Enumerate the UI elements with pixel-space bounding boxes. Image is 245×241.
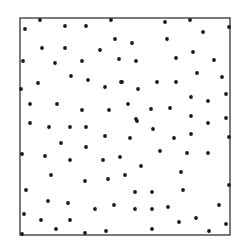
data-point [22,212,26,216]
plot-frame [20,18,230,235]
data-point [39,218,43,222]
data-point [134,59,138,63]
data-point [174,56,178,60]
data-point [166,205,170,209]
data-point [188,18,192,22]
data-point [150,207,154,211]
data-point [106,177,110,181]
data-point [104,229,108,233]
data-point [113,37,117,41]
data-point [150,227,154,231]
data-point [224,222,228,226]
data-point [107,108,111,112]
data-point [220,75,224,79]
data-point [206,99,210,103]
data-point [101,158,105,162]
data-point [227,25,231,29]
data-point [206,151,210,155]
data-point [103,134,107,138]
data-point [47,125,51,129]
data-point [86,78,90,82]
data-point [19,87,23,91]
data-point [212,58,216,62]
data-point [55,102,59,106]
data-point [49,173,53,177]
data-point [165,37,169,41]
data-point [80,108,84,112]
data-point [21,59,25,63]
data-point [84,24,88,28]
data-point [179,170,183,174]
data-point [103,85,107,89]
data-point [123,173,127,177]
data-point [63,46,67,50]
data-point [63,24,67,28]
data-point [158,149,162,153]
data-point [128,136,132,140]
data-point [191,50,195,54]
data-point [54,227,58,231]
data-point [217,203,221,207]
data-point [168,106,172,110]
data-point [28,102,32,106]
data-point [224,116,228,120]
data-point [68,218,72,222]
data-point [189,114,193,118]
data-point [23,27,27,31]
data-point [40,46,44,50]
data-point [181,188,185,192]
data-point [133,207,137,211]
data-point [112,203,116,207]
data-point [195,71,199,75]
data-point [133,190,137,194]
data-point [172,136,176,140]
data-point [69,74,73,78]
data-point [189,132,193,136]
data-point [207,229,211,233]
data-point [227,135,231,139]
data-point [130,41,134,45]
data-point [59,141,63,145]
data-points [19,18,231,236]
data-point [68,158,72,162]
data-point [150,190,154,194]
data-point [120,80,124,84]
data-point [189,95,193,99]
data-point [20,232,24,236]
data-point [224,92,228,96]
data-point [206,121,210,125]
data-point [43,154,47,158]
data-point [68,125,72,129]
data-point [93,207,97,211]
data-point [80,59,84,63]
data-point [20,152,24,156]
data-point [24,188,28,192]
data-point [136,87,140,91]
data-point [227,183,231,187]
data-point [139,164,143,168]
data-point [151,127,155,131]
data-point [38,18,42,22]
data-point [149,107,153,111]
data-point [109,18,113,22]
data-point [126,102,130,106]
data-point [194,216,198,220]
data-point [36,81,40,85]
data-point [117,57,121,61]
data-point [177,220,181,224]
data-point [83,179,87,183]
scatter-plot [0,0,245,241]
data-point [28,121,32,125]
data-point [201,30,205,34]
data-point [84,125,88,129]
data-point [174,80,178,84]
data-point [185,151,189,155]
data-point [66,201,70,205]
data-point [84,145,88,149]
data-point [118,155,122,159]
data-point [163,20,167,24]
data-point [98,48,102,52]
data-point [53,61,57,65]
data-point [155,80,159,84]
data-point [46,199,50,203]
